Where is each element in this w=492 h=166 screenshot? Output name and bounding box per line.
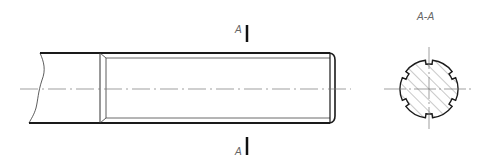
section-marker-top-label: A — [234, 24, 242, 35]
shaft-front-view — [20, 53, 351, 123]
shaft-right-end — [330, 53, 335, 123]
break-line — [29, 53, 44, 123]
section-marker-top: A — [234, 24, 247, 42]
section-view-title: A-A — [416, 11, 434, 22]
section-marker-bottom: A — [234, 137, 247, 157]
section-view-a-a: A-A — [384, 11, 473, 132]
technical-drawing: A A A-A — [0, 0, 492, 166]
section-marker-bottom-label: A — [234, 146, 242, 157]
